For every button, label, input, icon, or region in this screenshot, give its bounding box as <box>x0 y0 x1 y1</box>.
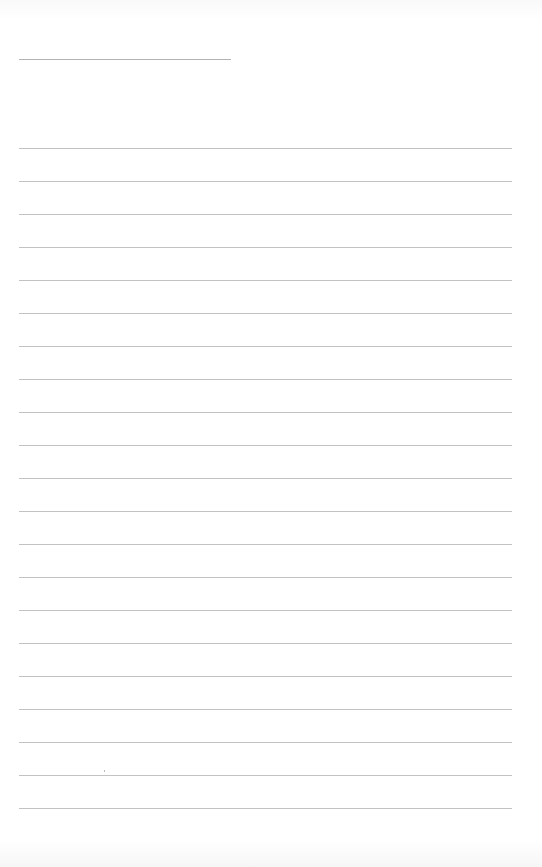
ruled-line <box>19 676 512 677</box>
ruled-line <box>19 247 512 248</box>
ruled-line <box>19 379 512 380</box>
ruled-line <box>19 577 512 578</box>
lined-paper-page <box>0 0 542 867</box>
ruled-line <box>19 412 512 413</box>
ruled-line <box>19 214 512 215</box>
ruled-line <box>19 445 512 446</box>
ruled-line <box>19 148 512 149</box>
ruled-line <box>19 775 512 776</box>
ruled-line <box>19 808 512 809</box>
ruled-line <box>19 280 512 281</box>
ruled-line <box>19 709 512 710</box>
ruled-line <box>19 610 512 611</box>
ruled-line <box>19 643 512 644</box>
ruled-line <box>19 346 512 347</box>
ruled-line <box>19 511 512 512</box>
ruled-line <box>19 544 512 545</box>
ruled-line <box>19 181 512 182</box>
paper-speck <box>104 770 105 772</box>
ruled-line <box>19 478 512 479</box>
ruled-line <box>19 313 512 314</box>
ruled-line <box>19 742 512 743</box>
ruled-lines <box>0 0 542 867</box>
